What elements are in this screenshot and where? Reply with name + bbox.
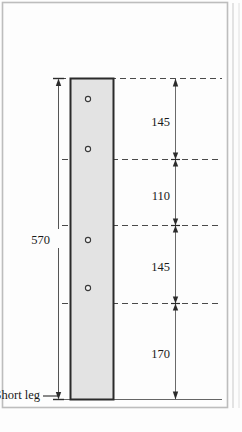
dimension-label-segment-1: 145: [151, 115, 170, 129]
short-leg-label: Short leg: [0, 388, 41, 402]
bolt-hole: [85, 146, 90, 151]
plate-outline: [71, 79, 114, 400]
dimension-label-overall: 570: [31, 233, 50, 247]
arrowhead-up-icon: [173, 79, 178, 87]
short-leg-annotation: Short leg: [0, 388, 59, 402]
page-frame: [3, 3, 228, 408]
bolt-hole: [85, 285, 90, 290]
chain-dimension-group: 145 110 145 170: [148, 79, 180, 400]
dimension-label-segment-2: 110: [152, 189, 170, 203]
bolt-hole: [85, 237, 90, 242]
dimension-label-segment-3: 145: [151, 260, 170, 274]
arrowhead-up-icon: [56, 79, 61, 87]
bowtie-marker-icon: [171, 219, 180, 233]
drawing-page: 570 Short leg: [0, 0, 242, 432]
bolt-hole: [85, 96, 90, 101]
dimension-label-segment-4: 170: [151, 347, 170, 361]
arrowhead-down-icon: [173, 392, 178, 400]
bowtie-marker-icon: [171, 153, 180, 167]
technical-drawing-svg: 570 Short leg: [0, 0, 242, 432]
bowtie-marker-icon: [171, 297, 180, 311]
overall-dimension-570: 570: [31, 79, 64, 400]
